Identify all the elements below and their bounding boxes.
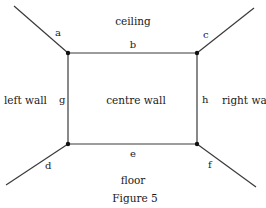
region-label-ceiling: ceiling [115, 16, 151, 27]
edge-label-d: d [45, 161, 51, 171]
figure-5-diagram: ceiling left wall centre wall right wall… [0, 0, 266, 208]
edge-label-b: b [130, 40, 136, 50]
edge-label-e: e [130, 149, 136, 159]
edge-label-g: g [59, 95, 65, 105]
region-label-floor: floor [121, 175, 146, 186]
region-label-centre-wall: centre wall [106, 95, 166, 106]
edge-label-a: a [55, 28, 61, 38]
figure-caption: Figure 5 [112, 193, 157, 204]
region-label-right-wall: right wall [222, 95, 266, 106]
vertex-bottom-left [66, 142, 70, 146]
edge-d-line [6, 144, 68, 185]
region-label-left-wall: left wall [4, 95, 47, 106]
edge-label-c: c [203, 30, 209, 40]
vertex-bottom-right [195, 142, 199, 146]
edge-f-line [197, 144, 256, 187]
vertex-top-left [66, 51, 70, 55]
edge-label-f: f [208, 160, 212, 170]
edge-label-h: h [202, 95, 208, 105]
vertex-top-right [195, 51, 199, 55]
